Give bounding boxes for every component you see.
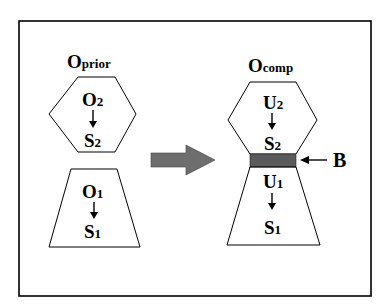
- right-hex-bottom-label: S2: [264, 133, 281, 154]
- left-hex-bottom-label: S2: [84, 130, 101, 151]
- left-trap-top-label: O1: [82, 181, 103, 202]
- diagram: Oprior O2 S2 O1 S1 Ocomp U2 S2 U1 S1 B: [0, 0, 383, 308]
- right-hex-top-label: U2: [263, 92, 283, 113]
- boundary-label: B: [333, 149, 346, 171]
- right-hex-arrowhead-icon: [268, 123, 276, 130]
- left-trap-bottom-label: S1: [84, 221, 101, 242]
- boundary-pointer-head-icon: [300, 156, 309, 164]
- right-trap-bottom-label: S1: [264, 217, 281, 238]
- left-hex-arrowhead-icon: [89, 121, 97, 128]
- boundary-band: [250, 154, 296, 167]
- left-hex-top-label: O2: [82, 89, 103, 110]
- left-title: Oprior: [67, 51, 111, 72]
- right-title: Ocomp: [248, 55, 293, 76]
- transform-arrow-icon: [151, 145, 215, 175]
- right-trap-top-label: U1: [263, 171, 283, 192]
- right-trap-arrowhead-icon: [268, 203, 276, 210]
- left-trap-arrowhead-icon: [90, 212, 98, 219]
